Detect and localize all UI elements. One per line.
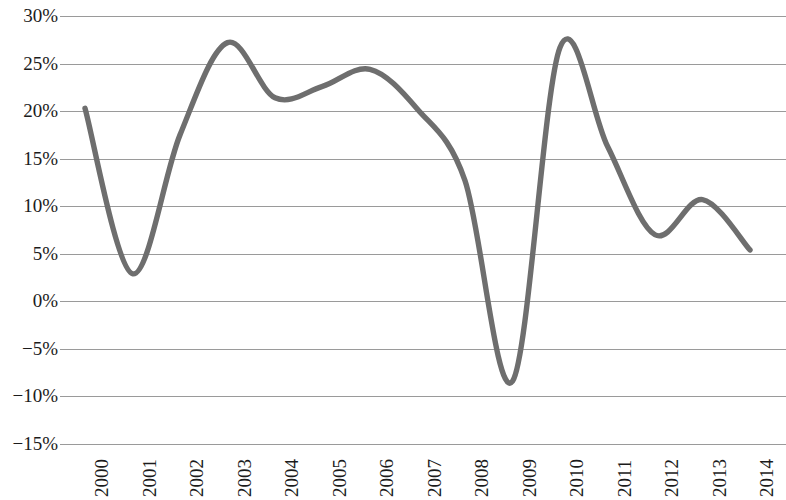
- x-tick-label: 2010: [567, 459, 586, 497]
- x-tick-label: 2011: [615, 460, 634, 497]
- x-tick-label: 2004: [282, 459, 301, 497]
- line-chart: 30%25%20%15%10%5%0%−5%−10%−15% 200020012…: [0, 0, 786, 500]
- gridlines: [60, 17, 786, 445]
- x-tick-label: 2014: [757, 459, 776, 497]
- y-tick-label: 5%: [2, 244, 58, 263]
- data-line-series-0: [85, 39, 750, 383]
- x-tick-label: 2001: [140, 459, 159, 497]
- x-tick-label: 2000: [92, 459, 111, 497]
- x-tick-label: 2007: [425, 459, 444, 497]
- y-tick-label: −10%: [2, 386, 58, 405]
- x-tick-label: 2003: [235, 459, 254, 497]
- y-tick-label: 30%: [2, 6, 58, 25]
- x-tick-label: 2002: [187, 459, 206, 497]
- x-tick-label: 2009: [520, 459, 539, 497]
- y-tick-label: 20%: [2, 101, 58, 120]
- x-tick-label: 2008: [472, 459, 491, 497]
- x-tick-label: 2012: [662, 459, 681, 497]
- y-tick-label: −15%: [2, 434, 58, 453]
- y-tick-label: 0%: [2, 291, 58, 310]
- x-tick-label: 2013: [710, 459, 729, 497]
- y-tick-label: 15%: [2, 149, 58, 168]
- y-tick-label: 25%: [2, 54, 58, 73]
- plot-svg: [0, 0, 786, 500]
- x-tick-label: 2006: [377, 459, 396, 497]
- data-series: [85, 39, 750, 383]
- y-tick-label: 10%: [2, 196, 58, 215]
- y-tick-label: −5%: [2, 339, 58, 358]
- plot-area: [0, 0, 786, 500]
- x-tick-label: 2005: [330, 459, 349, 497]
- y-axis-tick-labels: 30%25%20%15%10%5%0%−5%−10%−15%: [0, 0, 58, 500]
